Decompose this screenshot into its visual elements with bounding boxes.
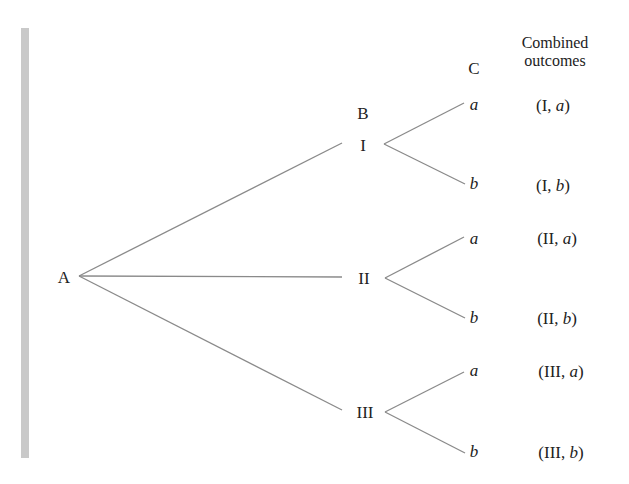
branch-iii-to-b <box>385 412 465 453</box>
header-stage-b: B <box>357 105 368 122</box>
header-stage-c: C <box>468 60 479 77</box>
node-c-iii-a: a <box>470 362 479 379</box>
node-b-i: I <box>360 137 366 154</box>
outcome-ii-a: (II, a) <box>537 230 577 247</box>
node-c-iii-b: b <box>470 443 479 460</box>
header-combined-outcomes: Combined outcomes <box>522 34 589 70</box>
header-combined-line1: Combined <box>522 34 589 52</box>
outcome-iii-b: (III, b) <box>538 444 583 461</box>
branch-a-to-i <box>79 143 342 276</box>
tree-branches <box>0 0 629 484</box>
branch-a-to-ii <box>79 276 342 277</box>
branch-ii-to-b <box>385 278 465 318</box>
branch-i-to-b <box>384 144 465 184</box>
outcome-iii-a: (III, a) <box>538 363 583 380</box>
header-combined-line2: outcomes <box>522 52 589 70</box>
outcome-i-a: (I, a) <box>536 97 570 114</box>
node-b-ii: II <box>358 270 369 287</box>
node-c-i-b: b <box>470 175 479 192</box>
branch-ii-to-a <box>385 237 464 278</box>
outcome-i-b: (I, b) <box>536 177 570 194</box>
branch-a-to-iii <box>79 276 342 410</box>
node-root-a: A <box>58 269 70 286</box>
outcome-ii-b: (II, b) <box>537 310 577 327</box>
node-b-iii: III <box>357 404 374 421</box>
node-c-ii-a: a <box>470 230 479 247</box>
node-c-i-a: a <box>470 96 479 113</box>
branch-i-to-a <box>384 103 464 144</box>
branch-iii-to-a <box>385 372 464 412</box>
node-c-ii-b: b <box>470 309 479 326</box>
